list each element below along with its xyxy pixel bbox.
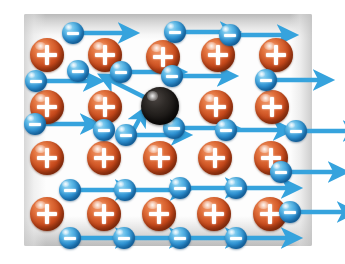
sphere-highlight [35,94,46,103]
free electron [169,227,191,249]
sphere-highlight [273,163,280,169]
minus-sign-icon [67,60,89,82]
plus-sign-icon [143,141,177,175]
positive ion [87,141,121,175]
sphere-highlight [65,24,72,30]
positive ion [259,38,293,72]
sphere-highlight [258,71,265,77]
sphere-highlight [228,229,235,235]
sphere-highlight [147,201,158,210]
minus-sign-icon [255,69,277,91]
minus-sign-icon [169,177,191,199]
sphere-highlight [92,201,103,210]
plus-sign-icon [142,197,176,231]
free electron [164,21,186,43]
free electron [279,201,301,223]
plus-sign-icon [30,38,64,72]
free electron [114,179,136,201]
minus-sign-icon [59,179,81,201]
sphere-highlight [206,42,217,51]
minus-sign-icon [59,227,81,249]
free electron [62,22,84,44]
plus-sign-icon [30,197,64,231]
plus-sign-icon [259,38,293,72]
plus-sign-icon [198,141,232,175]
free electron [24,113,46,135]
free electron [169,177,191,199]
sphere-highlight [62,181,69,187]
sphere-highlight [164,67,171,73]
minus-sign-icon [164,21,186,43]
minus-sign-icon [215,119,237,141]
plus-sign-icon [255,90,289,124]
free electron [93,119,115,141]
minus-sign-icon [115,124,137,146]
minus-sign-icon [219,24,241,46]
free electron [25,70,47,92]
positive ion [197,197,231,231]
free electron [225,227,247,249]
minus-sign-icon [113,227,135,249]
positive ion [143,141,177,175]
sphere-highlight [264,42,275,51]
free electron [59,227,81,249]
positive ion [30,197,64,231]
positive ion [142,197,176,231]
free electron [67,60,89,82]
sphere-highlight [96,121,103,127]
impurity scattering center [141,87,179,125]
conductor-illustration: Electron drift through a conductor latti… [0,0,345,264]
sphere-highlight [70,62,77,68]
sphere-highlight [222,26,229,32]
free electron [59,179,81,201]
minus-sign-icon [161,65,183,87]
sphere-highlight [151,44,162,53]
free electron [219,24,241,46]
sphere-highlight [203,145,214,154]
sphere-highlight [148,145,159,154]
sphere-highlight [282,203,289,209]
positive ion [30,38,64,72]
sphere-highlight [27,115,34,121]
sphere-highlight [93,42,104,51]
sphere-highlight [117,181,124,187]
free electron [110,61,132,83]
minus-sign-icon [25,70,47,92]
positive ion [255,90,289,124]
sphere-highlight [118,126,125,132]
free electron [285,120,307,142]
sphere-highlight [113,63,120,69]
minus-sign-icon [62,22,84,44]
minus-sign-icon [285,120,307,142]
sphere-highlight [93,94,104,103]
plus-sign-icon [30,141,64,175]
sphere-highlight [202,201,213,210]
sphere-highlight [204,94,215,103]
sphere-highlight [147,91,159,101]
sphere-highlight [92,145,103,154]
sphere-highlight [258,201,269,210]
sphere-highlight [62,229,69,235]
sphere-highlight [116,229,123,235]
minus-sign-icon [110,61,132,83]
minus-sign-icon [225,227,247,249]
sphere-highlight [35,201,46,210]
minus-sign-icon [114,179,136,201]
sphere-highlight [259,145,270,154]
free electron [113,227,135,249]
sphere-highlight [35,42,46,51]
plus-sign-icon [87,197,121,231]
minus-sign-icon [270,161,292,183]
positive ion [30,141,64,175]
minus-sign-icon [24,113,46,135]
sphere-highlight [260,94,271,103]
sphere-highlight [218,121,225,127]
minus-sign-icon [279,201,301,223]
plus-sign-icon [197,197,231,231]
free electron [161,65,183,87]
sphere-highlight [167,23,174,29]
sphere-highlight [172,229,179,235]
positive ion [87,197,121,231]
sphere-highlight [35,145,46,154]
free electron [225,177,247,199]
